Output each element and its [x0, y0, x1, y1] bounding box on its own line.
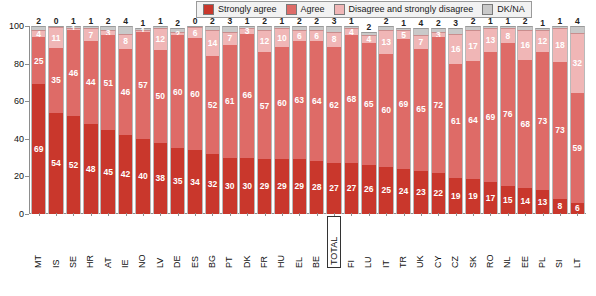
segment-strongly-agree[interactable]: 27	[344, 163, 360, 214]
segment-strongly-agree[interactable]: 13	[535, 190, 551, 214]
segment-agree[interactable]: 59	[570, 93, 586, 203]
segment-disagree[interactable]: 10	[274, 28, 290, 47]
segment-disagree[interactable]: 6	[187, 27, 203, 38]
segment-disagree[interactable]: 8	[326, 32, 342, 47]
bar-column[interactable]: 3166119	[448, 26, 464, 214]
segment-disagree[interactable]: 14	[205, 30, 221, 56]
segment-agree[interactable]: 60	[378, 54, 394, 167]
bar-column[interactable]: 066034	[187, 26, 203, 214]
bar-column[interactable]: 2136025	[378, 26, 394, 214]
segment-agree[interactable]: 72	[431, 37, 447, 172]
segment-agree[interactable]: 73	[535, 52, 551, 189]
segment-disagree[interactable]: 18	[552, 28, 568, 62]
segment-strongly-agree[interactable]: 23	[413, 171, 429, 214]
segment-agree[interactable]: 57	[135, 32, 151, 139]
segment-disagree[interactable]: 16	[448, 34, 464, 64]
segment-strongly-agree[interactable]: 30	[222, 158, 238, 214]
segment-dkna[interactable]: 4	[570, 26, 586, 33]
segment-agree[interactable]: 68	[344, 35, 360, 163]
segment-agree[interactable]: 46	[66, 30, 82, 116]
bar-column[interactable]: 156924	[396, 26, 412, 214]
bar-column[interactable]: 1127313	[535, 26, 551, 214]
segment-disagree[interactable]: 6	[309, 30, 325, 41]
segment-agree[interactable]: 61	[222, 45, 238, 159]
segment-disagree[interactable]: 17	[465, 30, 481, 61]
segment-agree[interactable]: 63	[292, 41, 308, 159]
segment-strongly-agree[interactable]: 42	[118, 135, 134, 214]
segment-agree[interactable]: 60	[274, 47, 290, 160]
segment-strongly-agree[interactable]: 29	[274, 159, 290, 214]
segment-disagree[interactable]: 16	[517, 30, 533, 60]
segment-disagree[interactable]: 11	[48, 27, 64, 48]
segment-agree[interactable]: 51	[100, 35, 116, 130]
segment-strongly-agree[interactable]: 52	[66, 116, 82, 214]
segment-strongly-agree[interactable]: 26	[361, 165, 377, 214]
bar-column[interactable]: 242569	[31, 26, 47, 214]
segment-disagree[interactable]: 7	[413, 35, 429, 48]
segment-agree[interactable]: 69	[396, 39, 412, 169]
segment-strongly-agree[interactable]: 32	[205, 154, 221, 214]
segment-strongly-agree[interactable]: 38	[153, 143, 169, 214]
bar-column[interactable]: 1125038	[153, 26, 169, 214]
segment-disagree[interactable]: 7	[83, 28, 99, 41]
segment-agree[interactable]: 61	[448, 64, 464, 179]
bar-column[interactable]: 174448	[83, 26, 99, 214]
bar-column[interactable]: 484642	[118, 26, 134, 214]
segment-disagree[interactable]: 12	[535, 30, 551, 53]
bar-column[interactable]: 114652	[66, 26, 82, 214]
segment-strongly-agree[interactable]: 17	[483, 182, 499, 214]
segment-disagree[interactable]: 32	[570, 33, 586, 93]
segment-agree[interactable]: 35	[48, 48, 64, 113]
segment-agree[interactable]: 64	[309, 41, 325, 161]
segment-dkna[interactable]: 4	[118, 26, 134, 34]
bar-column[interactable]: 1106029	[274, 26, 290, 214]
segment-disagree[interactable]: 4	[344, 28, 360, 36]
segment-strongly-agree[interactable]: 29	[257, 159, 273, 214]
segment-disagree[interactable]: 8	[118, 34, 134, 49]
segment-strongly-agree[interactable]: 28	[309, 161, 325, 214]
bar-column[interactable]: 476523	[413, 26, 429, 214]
segment-agree[interactable]: 50	[153, 50, 169, 143]
bar-column[interactable]: 2125729	[257, 26, 273, 214]
segment-agree[interactable]: 76	[500, 43, 516, 186]
bar-column[interactable]: 2166814	[517, 26, 533, 214]
segment-agree[interactable]: 69	[483, 52, 499, 182]
segment-agree[interactable]: 60	[170, 35, 186, 148]
bar-column[interactable]: 118738	[552, 26, 568, 214]
segment-disagree[interactable]: 4	[31, 30, 47, 38]
bar-column[interactable]: 136630	[239, 26, 255, 214]
segment-strongly-agree[interactable]: 19	[465, 179, 481, 214]
segment-strongly-agree[interactable]: 19	[448, 178, 464, 214]
bar-column[interactable]: 432596	[570, 26, 586, 214]
bar-column[interactable]: 226035	[170, 26, 186, 214]
bar-column[interactable]: 386227	[326, 26, 342, 214]
bar-column[interactable]: 146827	[344, 26, 360, 214]
segment-strongly-agree[interactable]: 40	[135, 139, 151, 214]
segment-strongly-agree[interactable]: 48	[83, 124, 99, 214]
segment-strongly-agree[interactable]: 35	[170, 148, 186, 214]
segment-strongly-agree[interactable]: 27	[326, 163, 342, 214]
segment-agree[interactable]: 60	[187, 38, 203, 150]
segment-agree[interactable]: 52	[205, 56, 221, 154]
segment-strongly-agree[interactable]: 24	[396, 169, 412, 214]
segment-strongly-agree[interactable]: 15	[500, 186, 516, 214]
segment-strongly-agree[interactable]: 25	[378, 167, 394, 214]
segment-strongly-agree[interactable]: 45	[100, 130, 116, 214]
segment-agree[interactable]: 25	[31, 37, 47, 84]
segment-disagree[interactable]: 12	[153, 28, 169, 50]
segment-disagree[interactable]: 13	[483, 28, 499, 52]
segment-agree[interactable]: 65	[413, 49, 429, 171]
segment-disagree[interactable]: 5	[396, 30, 412, 39]
segment-disagree[interactable]: 7	[222, 32, 238, 45]
bar-column[interactable]: 237222	[431, 26, 447, 214]
segment-strongly-agree[interactable]: 34	[187, 150, 203, 214]
segment-strongly-agree[interactable]: 22	[431, 173, 447, 214]
segment-agree[interactable]: 64	[465, 61, 481, 179]
segment-agree[interactable]: 68	[517, 60, 533, 188]
segment-disagree[interactable]: 4	[361, 35, 377, 43]
bar-column[interactable]: 2145232	[205, 26, 221, 214]
bar-column[interactable]: 266329	[292, 26, 308, 214]
segment-agree[interactable]: 65	[361, 43, 377, 165]
bar-column[interactable]: 376130	[222, 26, 238, 214]
segment-strongly-agree[interactable]: 8	[552, 199, 568, 214]
